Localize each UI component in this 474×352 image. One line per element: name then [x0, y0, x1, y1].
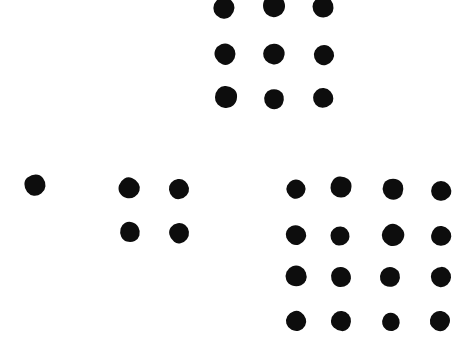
dot: [330, 310, 352, 332]
dot: [379, 310, 403, 334]
dot: [378, 220, 407, 249]
dot: [427, 263, 455, 291]
dot-pattern-canvas: [0, 0, 474, 352]
dot: [427, 222, 455, 250]
dot: [168, 178, 191, 201]
dot-cluster-two-by-two-grid: [0, 0, 474, 352]
dot-cluster-single-dot: [0, 0, 474, 352]
dot: [209, 0, 239, 23]
dot: [312, 0, 333, 18]
dot-cluster-three-by-three-grid: [0, 0, 474, 352]
dot: [211, 40, 239, 68]
dot: [427, 177, 455, 205]
dot: [426, 307, 454, 335]
dot: [330, 266, 351, 287]
dot: [165, 219, 193, 247]
dot: [283, 263, 310, 290]
dot: [260, 0, 289, 20]
dot: [118, 220, 142, 244]
dot: [259, 39, 289, 69]
dot: [283, 176, 308, 201]
dot: [379, 175, 406, 202]
dot: [377, 264, 404, 291]
dot: [261, 86, 288, 113]
dot: [309, 84, 337, 112]
dot: [283, 222, 309, 248]
dot: [115, 174, 144, 203]
dot: [214, 85, 237, 108]
dot-cluster-four-by-four-grid: [0, 0, 474, 352]
dot: [330, 176, 351, 197]
dot: [330, 226, 349, 245]
dot: [283, 308, 308, 333]
dot: [311, 42, 337, 68]
dot: [20, 170, 49, 199]
